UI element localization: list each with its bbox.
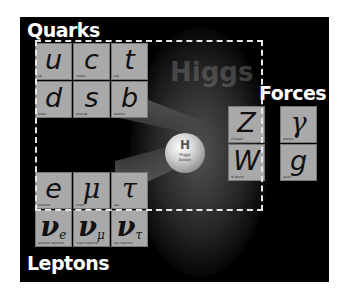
particle-name: tau neutrino xyxy=(114,241,133,245)
particle-name: electron neutrino xyxy=(38,241,64,245)
standard-model-diagram: Higgs Quarks u up c charm t top d down s… xyxy=(20,17,329,282)
leptons-title: Leptons xyxy=(27,252,109,274)
lepton-tile-tau-neutrino: ντ tau neutrino xyxy=(111,210,148,247)
dashed-grouping-box xyxy=(35,40,263,211)
particle-name: gluon xyxy=(283,175,291,179)
force-tile-photon: γ photon xyxy=(280,106,317,143)
lepton-tile-electron-neutrino: νe electron neutrino xyxy=(35,210,72,247)
particle-symbol: γ xyxy=(281,108,316,138)
force-tile-gluon: g gluon xyxy=(280,144,317,181)
lepton-tile-muon-neutrino: νμ muon neutrino xyxy=(73,210,110,247)
quarks-title: Quarks xyxy=(27,19,100,41)
particle-name: muon neutrino xyxy=(76,241,98,245)
forces-title: Forces xyxy=(259,82,326,104)
particle-symbol: g xyxy=(281,146,316,176)
particle-name: photon xyxy=(283,137,294,141)
